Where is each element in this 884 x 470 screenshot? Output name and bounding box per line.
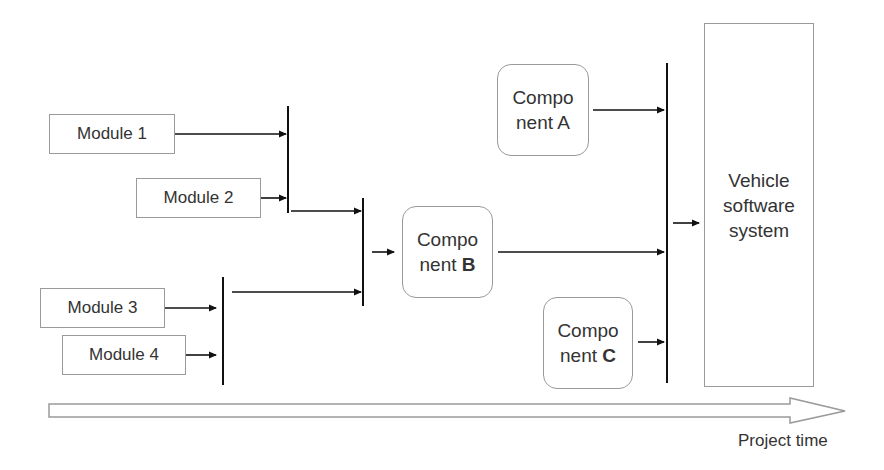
component-b-line2: nent B bbox=[420, 252, 476, 277]
system-line-1: Vehicle bbox=[728, 168, 789, 193]
project-time-arrow bbox=[49, 398, 845, 423]
module-1-label: Module 1 bbox=[77, 124, 147, 144]
module-4-box: Module 4 bbox=[62, 335, 186, 375]
component-a-box: Compo nent A bbox=[497, 64, 589, 156]
component-a-prefix: nent bbox=[516, 112, 557, 133]
component-c-line1: Compo bbox=[557, 318, 618, 343]
component-c-box: Compo nent C bbox=[543, 297, 633, 389]
system-line-2: software bbox=[723, 193, 795, 218]
module-3-label: Module 3 bbox=[68, 298, 138, 318]
component-a-line1: Compo bbox=[512, 85, 573, 110]
component-b-box: Compo nent B bbox=[402, 206, 493, 298]
module-1-box: Module 1 bbox=[49, 114, 175, 154]
project-time-label: Project time bbox=[738, 431, 828, 451]
module-2-box: Module 2 bbox=[136, 178, 261, 218]
module-3-box: Module 3 bbox=[40, 288, 165, 328]
component-c-letter: C bbox=[602, 345, 616, 366]
vehicle-software-system-box: Vehicle software system bbox=[704, 23, 814, 387]
component-b-prefix: nent bbox=[420, 254, 462, 275]
component-a-line2: nent A bbox=[516, 110, 570, 135]
component-b-line1: Compo bbox=[417, 227, 478, 252]
module-4-label: Module 4 bbox=[89, 345, 159, 365]
component-b-letter: B bbox=[462, 254, 476, 275]
component-a-letter: A bbox=[557, 112, 570, 133]
system-line-3: system bbox=[729, 218, 789, 243]
module-2-label: Module 2 bbox=[164, 188, 234, 208]
component-c-prefix: nent bbox=[560, 345, 602, 366]
component-c-line2: nent C bbox=[560, 343, 616, 368]
integration-diagram: Module 1 Module 2 Module 3 Module 4 Comp… bbox=[0, 0, 884, 470]
